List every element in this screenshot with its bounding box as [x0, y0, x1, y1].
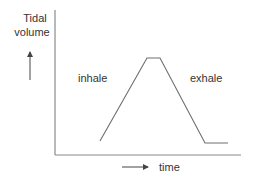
exhale-label: exhale [190, 72, 222, 84]
tidal-volume-curve [100, 58, 228, 143]
tidal-volume-diagram: Tidal volume inhale exhale time [0, 0, 253, 181]
inhale-label: inhale [78, 72, 107, 84]
y-axis-label-line1: Tidal [23, 12, 46, 24]
y-axis-label-line2: volume [14, 26, 49, 38]
x-axis-label: time [159, 161, 180, 173]
